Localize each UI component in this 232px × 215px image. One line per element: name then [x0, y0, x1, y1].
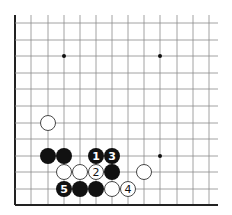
move-number: 5 — [60, 183, 68, 196]
star-point-icon — [62, 54, 66, 58]
move-number: 2 — [93, 166, 100, 179]
white-stone: 2 — [89, 165, 104, 180]
go-board: 13254 — [0, 0, 232, 215]
black-stone — [72, 181, 88, 197]
star-point-icon — [158, 54, 162, 58]
white-stone — [137, 165, 152, 180]
white-stone — [57, 165, 72, 180]
move-number: 4 — [125, 183, 132, 196]
black-stone — [40, 148, 56, 164]
black-stone — [56, 148, 72, 164]
star-point-icon — [158, 154, 162, 158]
black-stone — [88, 181, 104, 197]
white-stone — [105, 182, 120, 197]
white-stone — [41, 116, 56, 131]
black-stone: 3 — [104, 148, 120, 164]
black-stone — [104, 164, 120, 180]
move-number: 1 — [92, 150, 100, 163]
black-stone: 1 — [88, 148, 104, 164]
white-stone — [73, 165, 88, 180]
black-stone: 5 — [56, 181, 72, 197]
move-number: 3 — [108, 150, 116, 163]
white-stone: 4 — [121, 182, 136, 197]
